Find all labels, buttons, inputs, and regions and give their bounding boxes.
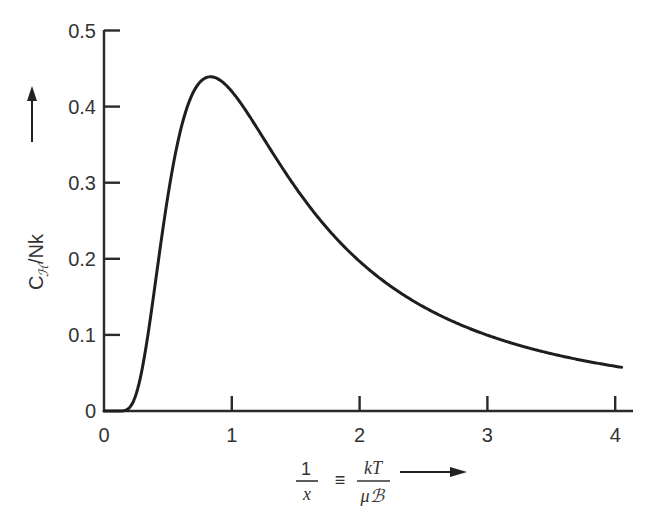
x-label-rhs-den: μℬ [359,486,385,506]
y-tick-label: 0.5 [68,20,96,42]
x-label-lhs-den: x [302,484,311,504]
x-label-rhs-num: kT [364,458,384,478]
x-tick-label: 4 [610,424,621,446]
y-ticks: 00.10.20.30.40.5 [68,20,120,423]
y-label-rest: /Nk [25,233,47,264]
x-tick-label: 1 [226,424,237,446]
y-tick-label: 0.2 [68,248,96,270]
y-axis-arrow-icon [27,86,37,142]
y-tick-label: 0.3 [68,172,96,194]
y-axis-label: C ℋ /Nk [25,233,51,290]
y-tick-label: 0 [85,400,96,422]
x-tick-label: 3 [482,424,493,446]
x-ticks: 01234 [98,396,620,446]
series-line-schottky [104,77,622,411]
x-tick-label: 2 [354,424,365,446]
x-axis-arrow-icon [400,467,467,477]
y-tick-label: 0.1 [68,324,96,346]
chart: 00.10.20.30.40.5 01234 C ℋ /Nk 1 x ≡ kT … [0,0,649,523]
x-tick-label: 0 [98,424,109,446]
x-label-equiv: ≡ [335,470,346,490]
x-axis-label: 1 x ≡ kT μℬ [296,458,390,506]
x-label-lhs-num: 1 [301,459,311,479]
y-tick-label: 0.4 [68,96,96,118]
